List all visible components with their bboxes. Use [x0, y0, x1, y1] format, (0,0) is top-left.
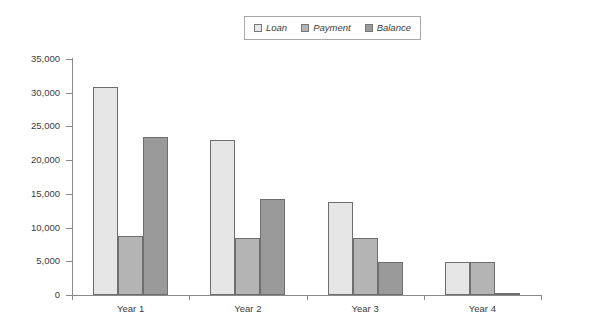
x-axis-separator-tick [541, 295, 542, 300]
x-axis-category-label: Year 2 [189, 304, 306, 314]
bar-balance-year-3 [378, 262, 403, 295]
bar-payment-year-2 [235, 238, 260, 295]
bar-loan-year-3 [328, 202, 353, 295]
y-axis-tick-label: 0 [12, 290, 60, 300]
square-swatch-icon [254, 24, 262, 32]
bar-payment-year-4 [470, 262, 495, 295]
bar-loan-year-1 [93, 87, 118, 295]
bar-balance-year-4 [495, 293, 520, 295]
x-axis-separator-tick [424, 295, 425, 300]
y-axis-tick-label: 25,000 [12, 121, 60, 131]
bar-balance-year-2 [260, 199, 285, 295]
x-axis-category-label: Year 1 [72, 304, 189, 314]
legend-item-label: Balance [377, 23, 411, 33]
x-axis-separator-tick [72, 295, 73, 300]
bar-payment-year-1 [118, 236, 143, 295]
legend-item-payment[interactable]: Payment [301, 23, 351, 33]
chart-legend: LoanPaymentBalance [244, 16, 421, 40]
bar-loan-year-2 [210, 140, 235, 295]
y-axis-tick-label: 30,000 [12, 88, 60, 98]
legend-item-loan[interactable]: Loan [254, 23, 287, 33]
x-axis-category-label: Year 3 [307, 304, 424, 314]
x-axis-category-label: Year 4 [424, 304, 541, 314]
legend-item-label: Loan [266, 23, 287, 33]
square-swatch-icon [365, 24, 373, 32]
bar-chart: LoanPaymentBalance 05,00010,00015,00020,… [0, 0, 613, 328]
legend-item-balance[interactable]: Balance [365, 23, 411, 33]
plot-area [72, 59, 541, 295]
y-axis-tick-label: 15,000 [12, 189, 60, 199]
y-axis-tick-label: 35,000 [12, 54, 60, 64]
x-axis-separator-tick [189, 295, 190, 300]
y-axis-tick-label: 5,000 [12, 256, 60, 266]
y-axis-tick-label: 10,000 [12, 223, 60, 233]
bar-payment-year-3 [353, 238, 378, 295]
square-swatch-icon [301, 24, 309, 32]
legend-item-label: Payment [313, 23, 351, 33]
bar-loan-year-4 [445, 262, 470, 295]
y-axis-tick-label: 20,000 [12, 155, 60, 165]
bar-balance-year-1 [143, 137, 168, 295]
x-axis-separator-tick [307, 295, 308, 300]
